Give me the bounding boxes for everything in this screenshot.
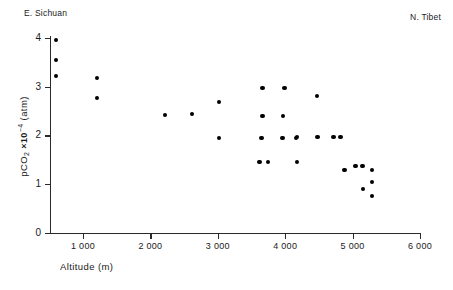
data-point bbox=[54, 74, 58, 78]
data-point bbox=[361, 187, 365, 191]
x-tick-2000 bbox=[150, 234, 151, 239]
x-tick-6000 bbox=[420, 234, 421, 239]
data-point bbox=[370, 180, 374, 184]
data-point bbox=[282, 86, 286, 90]
data-point bbox=[217, 100, 221, 104]
x-tick-1000 bbox=[83, 234, 84, 239]
y-tick-0 bbox=[45, 233, 50, 234]
x-ticklabel-2000: 2 000 bbox=[125, 241, 175, 251]
y-axis-title-subscript: 2 bbox=[23, 152, 30, 156]
data-point bbox=[315, 135, 319, 139]
data-point bbox=[257, 160, 261, 164]
data-point bbox=[217, 136, 221, 140]
region-label-right: N. Tibet bbox=[410, 12, 441, 22]
data-point bbox=[370, 194, 374, 198]
x-ticklabel-1000: 1 000 bbox=[58, 241, 108, 251]
data-point bbox=[370, 168, 374, 172]
data-point bbox=[353, 164, 357, 168]
x-tick-5000 bbox=[353, 234, 354, 239]
data-point bbox=[259, 136, 263, 140]
chart-figure: E. Sichuan N. Tibet 01234 1 0002 0003 00… bbox=[0, 0, 453, 290]
y-axis-title-co: CO bbox=[18, 156, 29, 171]
y-ticklabel-0: 0 bbox=[21, 227, 41, 238]
data-point bbox=[54, 38, 58, 42]
data-point bbox=[331, 135, 335, 139]
data-point bbox=[54, 58, 58, 62]
data-point bbox=[163, 113, 167, 117]
y-axis-title-multiplier: ×10 bbox=[19, 132, 29, 148]
data-point bbox=[360, 164, 364, 168]
data-point bbox=[260, 86, 264, 90]
region-label-left: E. Sichuan bbox=[24, 8, 67, 18]
data-point bbox=[95, 76, 99, 80]
data-point bbox=[260, 114, 264, 118]
x-tick-3000 bbox=[218, 234, 219, 239]
x-tick-4000 bbox=[285, 234, 286, 239]
y-axis-title: pCO2 ×10−4 (atm) bbox=[17, 67, 30, 207]
x-ticklabel-5000: 5 000 bbox=[328, 241, 378, 251]
data-point bbox=[338, 135, 342, 139]
y-axis-title-units: (atm) bbox=[18, 96, 29, 120]
x-axis-title: Altitude (m) bbox=[60, 261, 113, 272]
data-point bbox=[280, 136, 284, 140]
data-point bbox=[95, 96, 99, 100]
data-point bbox=[266, 160, 270, 164]
x-ticklabel-6000: 6 000 bbox=[395, 241, 445, 251]
x-ticklabel-3000: 3 000 bbox=[193, 241, 243, 251]
y-ticklabel-4: 4 bbox=[21, 32, 41, 43]
data-point bbox=[295, 135, 299, 139]
scatter-plot-area bbox=[50, 32, 425, 233]
data-point bbox=[281, 114, 285, 118]
data-point bbox=[315, 94, 319, 98]
y-axis-title-p: p bbox=[18, 171, 29, 177]
x-ticklabel-4000: 4 000 bbox=[260, 241, 310, 251]
data-point bbox=[295, 160, 299, 164]
y-axis-title-exponent: −4 bbox=[17, 123, 24, 132]
data-point bbox=[190, 112, 194, 116]
data-point bbox=[342, 168, 346, 172]
